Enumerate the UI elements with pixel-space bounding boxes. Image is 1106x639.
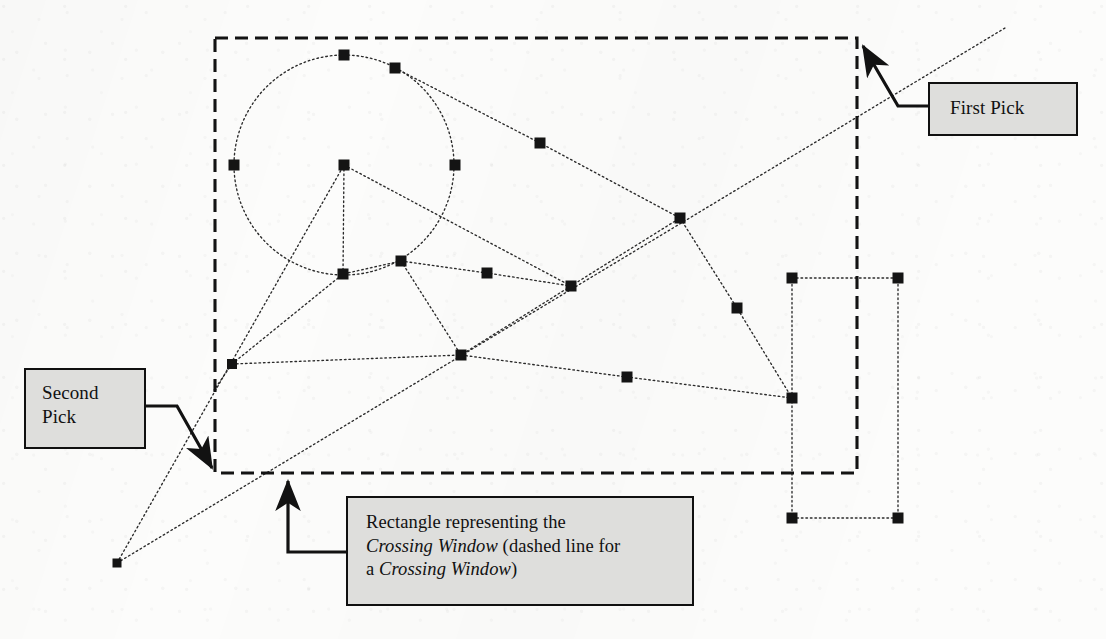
grip-point — [227, 359, 237, 369]
caption-line-3: a Crossing Window) — [366, 558, 692, 582]
grip-point — [893, 513, 904, 524]
grip-point — [535, 138, 546, 149]
grip-point — [396, 256, 407, 267]
callout-window-caption[interactable]: Rectangle representing the Crossing Wind… — [346, 496, 694, 606]
first-pick-leader-line — [863, 46, 928, 106]
grip-point — [229, 160, 240, 171]
grip-point — [787, 273, 798, 284]
callout-leader-lines — [146, 46, 928, 552]
grip-point — [339, 50, 350, 61]
grip-point — [113, 559, 122, 568]
right-rectangle-entity — [792, 278, 898, 518]
entity-geometry — [117, 28, 1005, 563]
caption-line-2-italic: Crossing Window — [366, 536, 498, 556]
grip-point — [787, 393, 798, 404]
caption-line-3-italic: Crossing Window — [379, 559, 511, 579]
polyline-tent-right — [344, 165, 571, 286]
grip-point — [732, 303, 743, 314]
caption-leader-line — [288, 481, 346, 552]
caption-line-1: Rectangle representing the — [366, 511, 692, 535]
caption-line-2: Crossing Window (dashed line for — [366, 535, 692, 559]
polyline-tent-foot-right — [461, 286, 571, 355]
grip-point — [787, 513, 798, 524]
second-pick-label-line-2: Pick — [42, 405, 144, 429]
caption-line-2-plain: (dashed line for — [498, 536, 620, 556]
grip-point — [675, 213, 686, 224]
polyline-mid-chain — [232, 218, 680, 364]
grip-point — [482, 268, 493, 279]
first-pick-label: First Pick — [950, 96, 1076, 120]
caption-line-3-tail: ) — [511, 559, 517, 579]
grip-point — [339, 160, 350, 171]
grip-point — [338, 269, 349, 280]
second-pick-label-line-1: Second — [42, 381, 144, 405]
grip-point — [622, 372, 633, 383]
caption-line-3-lead: a — [366, 559, 379, 579]
grip-point — [390, 63, 401, 74]
second-pick-leader-line — [146, 406, 212, 468]
crossing-window-rectangle — [215, 38, 857, 473]
callout-first-pick[interactable]: First Pick — [928, 82, 1078, 136]
grip-point — [566, 281, 577, 292]
callout-second-pick[interactable]: Second Pick — [24, 368, 146, 449]
polyline-tent-left — [343, 165, 344, 274]
grip-point — [893, 273, 904, 284]
polyline-tent-foot-left — [401, 261, 461, 355]
grip-point — [456, 350, 467, 361]
polyline-lower-chain — [232, 355, 792, 398]
grip-point — [450, 160, 461, 171]
